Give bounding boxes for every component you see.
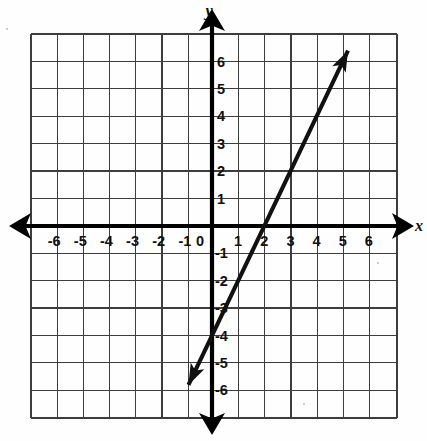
axis-lines <box>14 14 409 430</box>
y-tick-label: 5 <box>217 81 225 97</box>
x-axis-label: x <box>414 217 423 234</box>
x-tick-label: 1 <box>234 233 242 249</box>
x-tick-label: 4 <box>313 233 321 249</box>
y-tick-label: -1 <box>215 245 228 261</box>
graph-figure: y x -6 -5 -4 -3 -2 -1 0 1 2 3 4 5 6 6 5 … <box>0 0 427 441</box>
x-tick-label: 5 <box>339 233 347 249</box>
y-tick-label: 4 <box>217 108 225 124</box>
origin-label: 0 <box>196 233 204 249</box>
x-tick-label: -5 <box>74 233 87 249</box>
y-tick-label: 1 <box>217 191 225 207</box>
y-tick-label: 2 <box>217 163 225 179</box>
x-tick-label: 6 <box>365 233 373 249</box>
y-tick-label: -4 <box>215 328 228 344</box>
y-axis-label: y <box>203 2 213 20</box>
coordinate-plane: y x -6 -5 -4 -3 -2 -1 0 1 2 3 4 5 6 6 5 … <box>0 0 427 441</box>
x-tick-label: -2 <box>152 233 165 249</box>
x-tick-label: -4 <box>100 233 113 249</box>
y-tick-label: 3 <box>217 136 225 152</box>
y-tick-label: -3 <box>215 300 228 316</box>
x-tick-label: -6 <box>48 233 61 249</box>
x-tick-label: -3 <box>126 233 139 249</box>
x-tick-label: -1 <box>178 233 191 249</box>
y-tick-label: -2 <box>215 273 228 289</box>
y-tick-label: -6 <box>215 382 228 398</box>
y-tick-label: 6 <box>217 54 225 70</box>
x-tick-label: 3 <box>286 233 294 249</box>
x-tick-label: 2 <box>260 233 268 249</box>
y-tick-label: -5 <box>215 355 228 371</box>
